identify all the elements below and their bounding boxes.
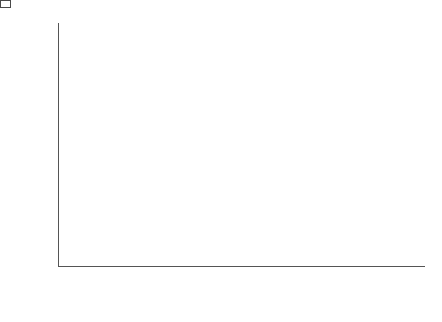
chart-figure xyxy=(0,0,442,322)
chart-legend xyxy=(0,0,11,8)
axis-frame xyxy=(58,23,425,267)
plot-area xyxy=(58,23,425,267)
